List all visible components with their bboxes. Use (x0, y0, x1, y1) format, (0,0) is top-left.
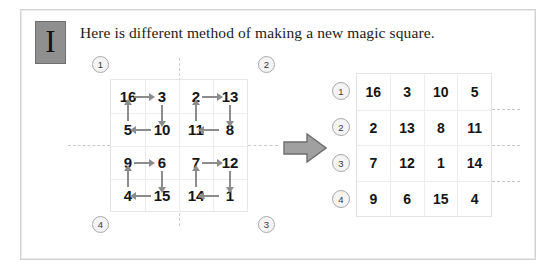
table-cell: 3 (390, 74, 424, 110)
section-badge-letter: I (45, 26, 55, 57)
guide-line-table-row1 (492, 109, 520, 110)
table-row: 7 12 1 14 (357, 145, 491, 181)
result-row-marker-4: 4 (332, 190, 350, 208)
result-row-marker-2: 2 (332, 118, 350, 136)
table-cell: 10 (424, 74, 458, 110)
quadrant-label-4: 4 (92, 216, 109, 233)
table-cell: 4 (457, 182, 491, 217)
quadrant-label-1-text: 1 (98, 59, 103, 70)
table-cell: 5 (457, 74, 491, 110)
cycle-arrow-right-icon (202, 162, 217, 164)
cycle-arrow-left-icon (204, 195, 219, 197)
cycle-arrow-down-icon (161, 105, 163, 121)
result-row-marker-1-text: 1 (338, 86, 343, 97)
quadrant-label-3-text: 3 (264, 219, 269, 230)
cycle-arrow-right-icon (134, 162, 149, 164)
table-cell: 2 (357, 111, 390, 146)
quadrant-label-1: 1 (92, 56, 109, 73)
table-row: 2 13 8 11 (357, 110, 491, 146)
quadrant-label-3: 3 (258, 216, 275, 233)
cycle-arrow-up-icon (195, 171, 197, 187)
magic-square-figure: I Here is different method of making a n… (0, 0, 556, 275)
table-row: 9 6 15 4 (357, 181, 491, 217)
transform-arrow-icon (283, 133, 327, 163)
cycle-arrow-up-icon (195, 105, 197, 121)
table-cell: 16 (357, 74, 390, 110)
table-cell: 15 (424, 182, 458, 217)
source-grid: 16 3 2 13 5 10 11 8 9 6 7 12 4 15 14 1 (110, 79, 248, 212)
table-cell: 7 (357, 146, 390, 181)
table-cell: 9 (357, 182, 390, 217)
cycle-arrow-down-icon (229, 105, 231, 121)
result-row-marker-3: 3 (332, 154, 350, 172)
quadrant-label-4-text: 4 (98, 219, 103, 230)
cycle-arrow-right-icon (202, 96, 217, 98)
page-title: Here is different method of making a new… (80, 24, 435, 42)
guide-line-horizontal-right (248, 145, 278, 146)
table-cell: 8 (424, 111, 458, 146)
quadrant-label-2: 2 (258, 56, 275, 73)
result-row-marker-4-text: 4 (338, 194, 343, 205)
table-cell: 14 (457, 146, 491, 181)
cycle-arrow-left-icon (136, 195, 151, 197)
guide-line-table-row2 (492, 145, 520, 146)
table-row: 16 3 10 5 (357, 74, 491, 110)
cycle-arrow-left-icon (136, 129, 151, 131)
table-cell: 1 (424, 146, 458, 181)
section-badge: I (35, 21, 66, 64)
result-magic-square-table: 16 3 10 5 2 13 8 11 7 12 1 14 9 6 15 4 (356, 73, 492, 217)
quadrant-label-2-text: 2 (264, 59, 269, 70)
result-row-marker-2-text: 2 (338, 122, 343, 133)
table-cell: 11 (457, 111, 491, 146)
result-row-marker-3-text: 3 (338, 158, 343, 169)
table-cell: 6 (390, 182, 424, 217)
cycle-arrow-left-icon (204, 129, 219, 131)
result-row-marker-1: 1 (332, 82, 350, 100)
table-cell: 13 (390, 111, 424, 146)
cycle-arrow-down-icon (229, 171, 231, 187)
table-cell: 12 (390, 146, 424, 181)
cycle-arrow-down-icon (161, 171, 163, 187)
guide-line-table-row3 (492, 181, 520, 182)
cycle-arrow-up-icon (127, 171, 129, 187)
cycle-arrow-up-icon (127, 105, 129, 121)
guide-line-horizontal-left (68, 145, 110, 146)
cycle-arrow-right-icon (134, 96, 149, 98)
